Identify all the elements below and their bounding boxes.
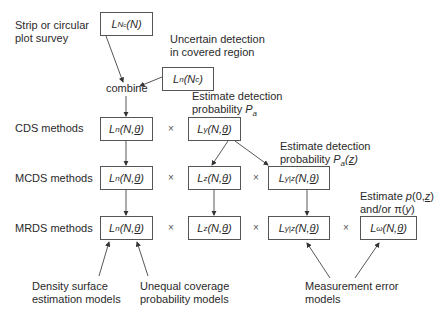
label-combine: combine	[106, 82, 148, 95]
box-cds-ln: Ln(N,θ)	[100, 117, 153, 141]
box-mrds-lyz: Ly|z(N,θ)	[268, 216, 330, 240]
box-cds-ly: Ly(N,θ)	[188, 117, 241, 141]
times-operator: ×	[253, 172, 259, 183]
box-lnc-n: LNc(N)	[100, 12, 153, 36]
times-operator: ×	[253, 222, 259, 233]
box-mrds-lz: Lz(N,θ)	[188, 216, 241, 240]
box-mcds-lz: Lz(N,θ)	[188, 166, 241, 190]
times-operator: ×	[168, 222, 174, 233]
box-ln-nc: Ln(Nc)	[162, 67, 214, 91]
times-operator: ×	[168, 172, 174, 183]
box-mcds-ln: Ln(N,θ)	[100, 166, 153, 190]
label-cds-methods: CDS methods	[15, 122, 83, 135]
label-estimate-pa: Estimate detectionprobability Pa	[192, 90, 283, 120]
label-measurement-error: Measurement errormodels	[305, 280, 399, 306]
label-density-surface: Density surfaceestimation models	[32, 280, 121, 306]
label-uncertain-detection: Uncertain detectionin covered region	[170, 33, 265, 59]
box-mrds-lw: Lω(N,θ)	[360, 216, 417, 240]
label-strip-survey: Strip or circular plot survey	[15, 19, 89, 45]
box-mrds-ln: Ln(N,θ)	[100, 216, 153, 240]
label-estimate-p0: Estimate p(0,z)and/or π(y)	[360, 190, 434, 216]
label-mrds-methods: MRDS methods	[15, 222, 93, 235]
label-unequal-coverage: Unequal coverageprobability models	[140, 280, 229, 306]
times-operator: ×	[168, 123, 174, 134]
box-mcds-lyz: Ly|z(N,θ)	[268, 166, 330, 190]
times-operator: ×	[343, 222, 349, 233]
label-mcds-methods: MCDS methods	[15, 172, 93, 185]
